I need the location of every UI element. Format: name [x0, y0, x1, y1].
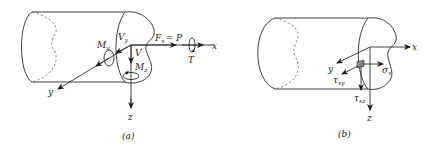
y-axis-label-a: y: [47, 87, 54, 97]
y-axis-label-b: y: [327, 64, 334, 74]
cylinder-b: [258, 18, 397, 90]
stress-element: [357, 60, 364, 67]
beam-internal-forces-diagram: x y z Fx= P T Vy V My Mz (a) x: [0, 0, 430, 154]
y-axis-b: [337, 47, 370, 63]
z-axis-label-b: z: [366, 113, 372, 123]
moment-mz-label: Mz: [134, 62, 148, 73]
shear-stress-xy-arrow: [342, 66, 358, 74]
shear-stress-xz-label: τxz: [354, 93, 366, 104]
shear-stress-xy-label: τxy: [333, 75, 345, 87]
x-axis-label-b: x: [412, 42, 417, 52]
axial-force-label: Fx= P: [154, 33, 183, 44]
x-axis-label-a: x: [212, 41, 217, 51]
shear-vy-arrow: [116, 45, 131, 53]
z-axis-label-a: z: [127, 112, 133, 122]
panel-b: x y z σx τxy τxz (b): [258, 18, 417, 139]
caption-b: (b): [338, 129, 351, 139]
torque-label: T: [188, 55, 195, 65]
shear-vy-label: Vy: [118, 32, 129, 44]
moment-my-label: My: [96, 40, 110, 52]
caption-a: (a): [122, 131, 135, 141]
shear-vz-label: V: [135, 48, 143, 58]
panel-a: x y z Fx= P T Vy V My Mz (a): [22, 12, 218, 141]
